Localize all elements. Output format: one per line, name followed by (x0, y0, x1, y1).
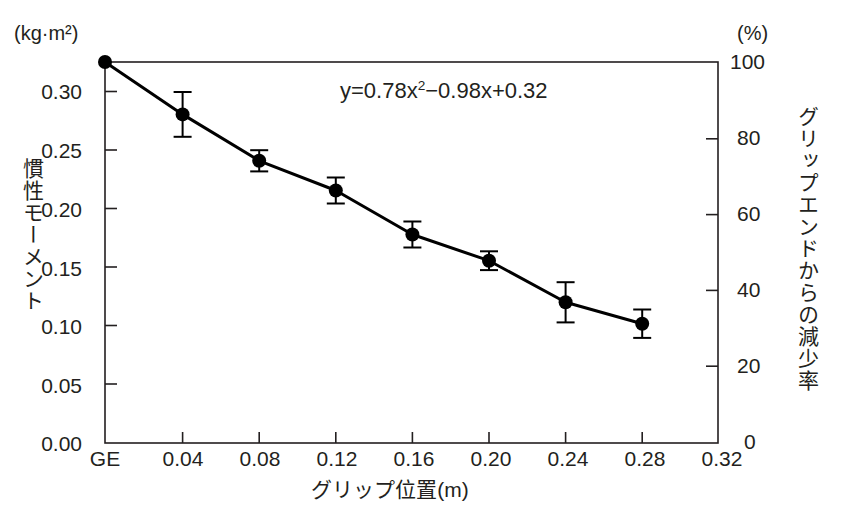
data-point-0.04 (176, 107, 190, 121)
data-point-0.28 (635, 317, 649, 331)
data-point-0.08 (252, 154, 266, 168)
data-point-0.20 (482, 254, 496, 268)
error-bars (174, 92, 652, 338)
left-axis-ticks (105, 92, 117, 385)
data-point-GE (98, 55, 112, 69)
x-axis-ticks (183, 432, 643, 443)
plot-frame (105, 62, 718, 443)
right-axis-ticks (706, 139, 718, 366)
chart-figure: (kg·m²) (%) 0.30 0.25 0.20 0.15 0.10 0.0… (0, 0, 850, 516)
data-line-series-1 (105, 62, 642, 324)
data-point-0.16 (405, 228, 419, 242)
chart-plot-area (0, 0, 850, 516)
data-point-0.12 (329, 184, 343, 198)
data-point-0.24 (559, 295, 573, 309)
